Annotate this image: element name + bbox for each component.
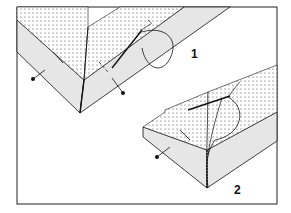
step-label-1: 1 <box>191 47 198 61</box>
step-label-2: 2 <box>234 183 241 197</box>
diagram-figure: 1 2 <box>0 0 291 213</box>
